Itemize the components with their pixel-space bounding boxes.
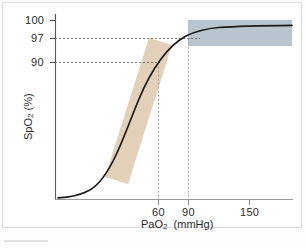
x-axis-title-text: PaO [141,218,163,230]
steep-region-band [105,38,172,184]
x-axis-title-units: (mmHg) [174,218,214,230]
y-axis-title-units: (%) [22,93,34,110]
y-tick-label-97: 97 [31,32,44,44]
x-tick-label-150: 150 [240,206,259,218]
y-tick-label-100: 100 [25,14,44,26]
dissociation-curve [58,25,292,197]
y-tick-label-90: 90 [31,56,44,68]
y-axis-title-subscript: 2 [26,114,35,118]
x-axis-title-subscript: 2 [163,222,167,231]
y-axis-ticks [50,21,55,63]
figure-container: 100 97 90 60 90 150 SpO2 (%) PaO2 (mmHg) [0,0,306,248]
x-tick-label-60: 60 [152,206,165,218]
plateau-region-band [188,20,292,46]
x-axis-ticks [159,200,250,206]
x-tick-label-90: 90 [182,206,195,218]
y-axis-title-text: SpO [22,118,34,140]
x-axis-title: PaO2 (mmHg) [141,218,213,231]
y-axis-title: SpO2 (%) [22,93,35,140]
